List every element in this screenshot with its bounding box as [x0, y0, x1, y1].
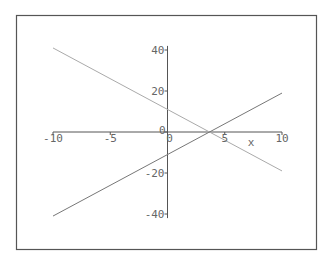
y-tick-label: -20 — [145, 167, 165, 180]
chart-canvas: -10-5510-40-20204000x — [0, 0, 331, 262]
y-tick-label: 40 — [151, 44, 164, 57]
x-tick-label: 5 — [221, 132, 228, 145]
x-tick-label: 10 — [275, 132, 288, 145]
y-tick-label: 20 — [151, 85, 164, 98]
x-origin-label: 0 — [166, 132, 173, 145]
y-origin-label: 0 — [159, 124, 166, 137]
x-axis-label: x — [248, 136, 255, 149]
x-tick-label: -5 — [104, 132, 117, 145]
x-tick-label: -10 — [43, 132, 63, 145]
y-tick-label: -40 — [145, 208, 165, 221]
